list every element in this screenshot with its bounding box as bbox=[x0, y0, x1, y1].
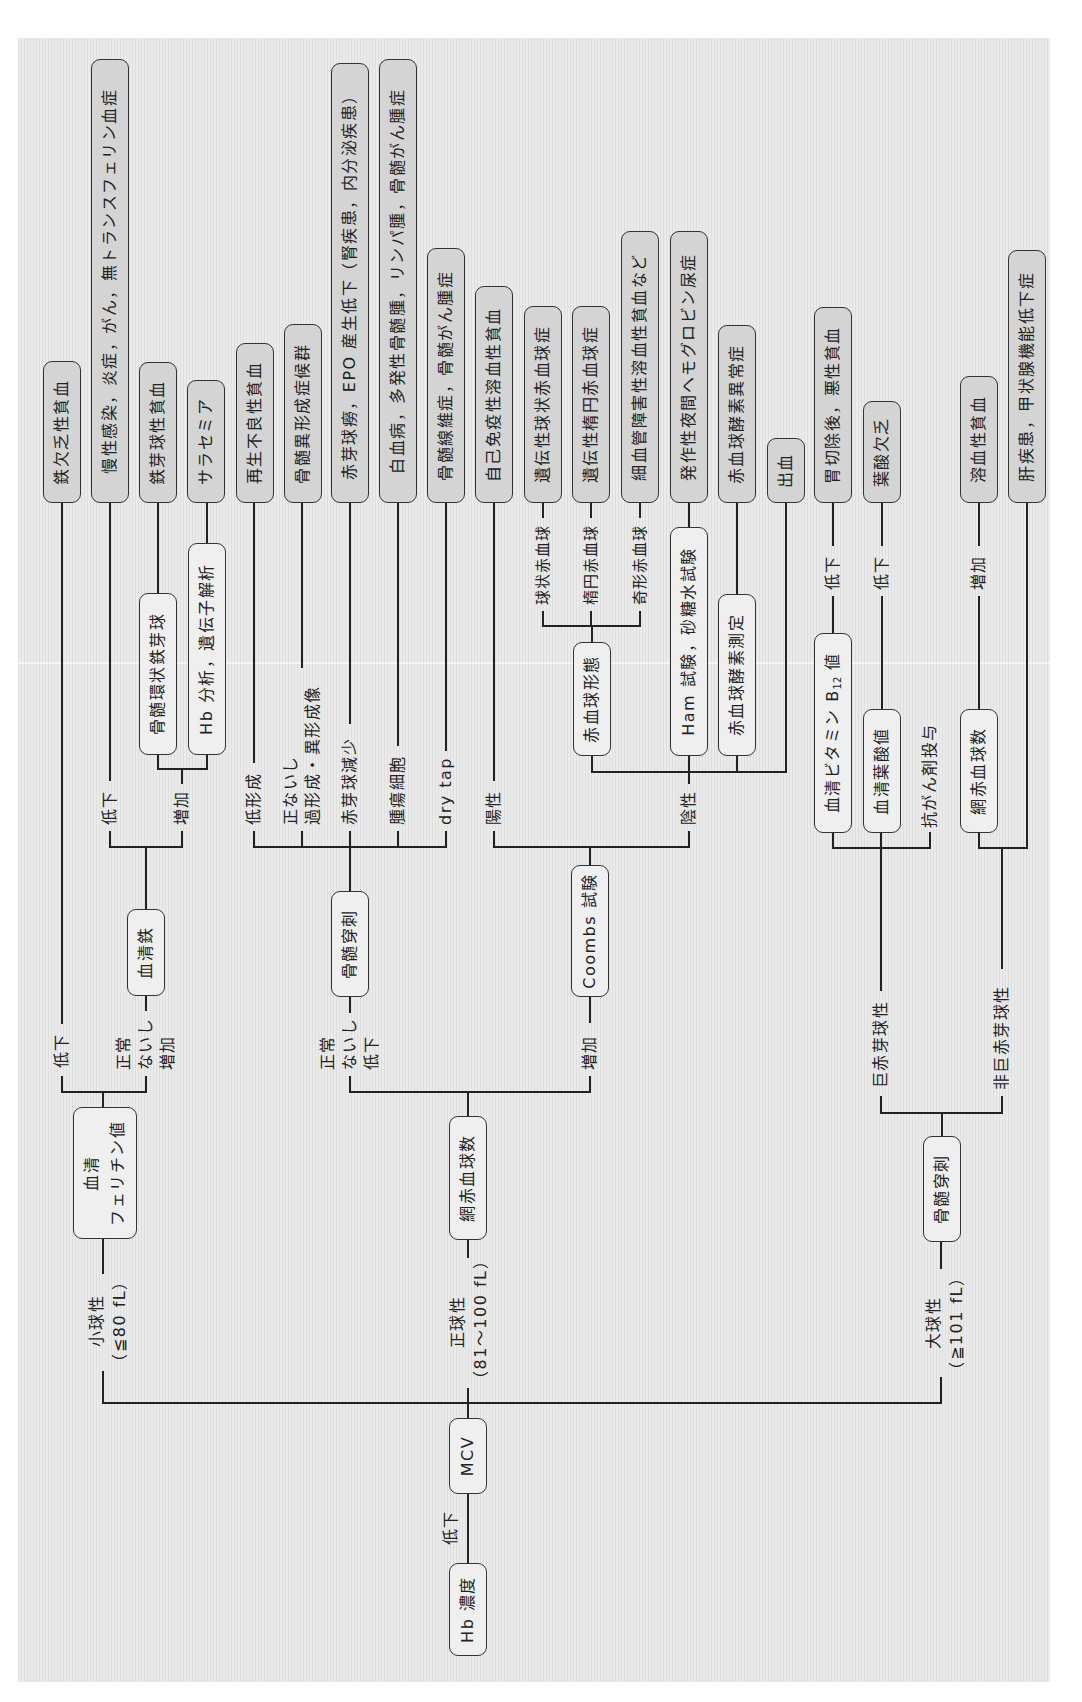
macrocytic-label-line1: 大球性 bbox=[922, 1258, 945, 1388]
edge-label-folate-decreased: 低下 bbox=[872, 555, 892, 590]
serum-ferritin-label-line1: 血清 bbox=[79, 1156, 105, 1191]
reticulocyte-count-node: 網赤血球数 bbox=[449, 1116, 487, 1240]
ring-sideroblast-node: 骨髄環状鉄芽球 bbox=[139, 593, 177, 755]
ring-sideroblast-label: 骨髄環状鉄芽球 bbox=[148, 613, 167, 736]
label-line: 正常 bbox=[113, 1018, 135, 1071]
coombs-test-node: Coombs 試験 bbox=[571, 865, 609, 997]
b12-label-suffix: 値 bbox=[823, 653, 842, 677]
diagnosis-label: 自己免疫性溶血性貧血 bbox=[484, 307, 503, 482]
page: Hb 濃度 低下 MCV 小球性 （≦80 fL） 正球性 （81～100 fL… bbox=[0, 0, 1082, 1702]
diagnosis-label: 出血 bbox=[776, 453, 795, 488]
edge-label-non-megaloblastic: 非巨赤芽球性 bbox=[992, 985, 1012, 1090]
serum-iron-label: 血清鉄 bbox=[136, 926, 155, 979]
microcytic-label: 小球性 （≦80 fL） bbox=[85, 1256, 131, 1386]
edge-label-hypoplastic: 低形成 bbox=[244, 773, 264, 826]
serum-ferritin-node: 血清 フェリチン値 bbox=[73, 1107, 137, 1239]
diagnosis-liver-disease-hypothyroidism: 肝疾患，甲状腺機能低下症 bbox=[1008, 250, 1046, 503]
serum-vitamin-b12-label: 血清ビタミン B12 値 bbox=[823, 653, 844, 814]
edge-label-dry-tap: dry tap bbox=[436, 757, 456, 825]
mcv-node: MCV bbox=[449, 1418, 487, 1494]
diagnosis-pure-red-cell-aplasia: 赤芽球癆，EPO 産生低下（腎疾患，内分泌疾患） bbox=[331, 63, 369, 503]
edge-label-erythroblast-decreased: 赤芽球減少 bbox=[340, 738, 360, 826]
edge-label-anticancer-drug: 抗がん剤投与 bbox=[920, 723, 940, 828]
diagnosis-post-gastrectomy-pernicious-anemia: 胃切除後，悪性貧血 bbox=[814, 307, 852, 503]
normocytic-label-line2: （81～100 fL） bbox=[469, 1257, 492, 1387]
diagnosis-label: サラセミア bbox=[196, 398, 215, 486]
edge-label-ferritin-decreased: 低下 bbox=[52, 1033, 72, 1068]
edge-label-elliptocytes: 楕円赤血球 bbox=[581, 525, 601, 605]
normocytic-label: 正球性 （81～100 fL） bbox=[446, 1257, 492, 1387]
diagnosis-folate-deficiency: 葉酸欠乏 bbox=[863, 401, 901, 503]
edge-label-ferritin-normal-or-increased: 正常 ないし 増加 bbox=[113, 1018, 179, 1071]
rbc-enzyme-assay-label: 赤血球酵素測定 bbox=[727, 614, 746, 737]
anemia-diagnostic-flowchart: Hb 濃度 低下 MCV 小球性 （≦80 fL） 正球性 （81～100 fL… bbox=[0, 0, 1082, 1702]
diagnosis-label: 鉄芽球性貧血 bbox=[148, 380, 167, 485]
diagnosis-label: 再生不良性貧血 bbox=[245, 362, 264, 485]
diagnosis-myelodysplastic-syndrome: 骨髄異形成症候群 bbox=[284, 324, 322, 503]
label-line: 正ないし bbox=[280, 685, 302, 825]
mcv-label: MCV bbox=[458, 1436, 477, 1476]
diagnosis-bleeding: 出血 bbox=[767, 438, 805, 503]
diagnosis-chronic-inflammation: 慢性感染，炎症，がん，無トランスフェリン血症 bbox=[91, 59, 129, 503]
diagnosis-label: 遺伝性楕円赤血球症 bbox=[581, 326, 600, 484]
diagnosis-label: 遺伝性球状赤血球症 bbox=[533, 326, 552, 484]
label-line: 増加 bbox=[157, 1018, 179, 1071]
diagnosis-leukemia-myeloma-lymphoma: 白血病，多発性骨髄腫，リンパ腫，骨髄がん腫症 bbox=[379, 59, 417, 503]
edge-label-coombs-positive: 陽性 bbox=[484, 790, 504, 825]
diagnosis-label: 鉄欠乏性貧血 bbox=[52, 380, 71, 485]
ham-test-label: Ham 試験，砂糖水試験 bbox=[679, 547, 698, 736]
bone-marrow-aspiration-node: 骨髄穿刺 bbox=[331, 891, 369, 997]
bone-marrow-aspiration-macro-label: 骨髄穿刺 bbox=[932, 1154, 951, 1224]
diagnosis-label: 胃切除後，悪性貧血 bbox=[823, 326, 842, 484]
diagnosis-aplastic-anemia: 再生不良性貧血 bbox=[236, 343, 274, 503]
diagnosis-rbc-enzyme-deficiency: 赤血球酵素異常症 bbox=[718, 325, 756, 503]
diagnosis-pnh: 発作性夜間ヘモグロビン尿症 bbox=[670, 231, 708, 503]
diagnosis-microangiopathic-hemolytic-anemia: 細血管障害性溶血性貧血など bbox=[621, 231, 659, 503]
rbc-enzyme-assay-node: 赤血球酵素測定 bbox=[718, 594, 756, 756]
edge-label-serum-iron-decreased: 低下 bbox=[100, 790, 120, 825]
diagnosis-autoimmune-hemolytic-anemia: 自己免疫性溶血性貧血 bbox=[475, 286, 513, 503]
hb-concentration-label: Hb 濃度 bbox=[458, 1576, 477, 1643]
normocytic-label-line1: 正球性 bbox=[446, 1257, 469, 1387]
reticulocyte-count-label: 網赤血球数 bbox=[458, 1134, 477, 1222]
label-line: 過形成・異形成像 bbox=[302, 685, 324, 825]
diagnosis-label: 骨髄異形成症候群 bbox=[293, 344, 312, 484]
label-line: 正常 bbox=[317, 1018, 339, 1071]
edge-label-normo-hyperplastic-dysplastic: 正ないし 過形成・異形成像 bbox=[280, 685, 324, 825]
connectors-trunk bbox=[103, 1239, 941, 1563]
diagnosis-label: 葉酸欠乏 bbox=[872, 417, 891, 487]
diagnosis-thalassemia: サラセミア bbox=[187, 380, 225, 503]
bone-marrow-aspiration-label: 骨髄穿刺 bbox=[340, 909, 359, 979]
bone-marrow-aspiration-macro-node: 骨髄穿刺 bbox=[923, 1136, 961, 1242]
edge-label-reticulocyte-normal-or-decreased: 正常 ないし 低下 bbox=[317, 1018, 383, 1071]
b12-label-main: 血清ビタミン B bbox=[823, 689, 842, 813]
diagnosis-label: 細血管障害性溶血性貧血など bbox=[630, 253, 649, 481]
b12-label-subscript: 12 bbox=[832, 677, 843, 690]
diagnosis-label: 肝疾患，甲状腺機能低下症 bbox=[1017, 272, 1036, 482]
rbc-morphology-node: 赤血球形態 bbox=[573, 642, 611, 756]
macrocytic-label: 大球性 （≧101 fL） bbox=[922, 1258, 968, 1388]
hb-analysis-gene-analysis-node: Hb 分析，遺伝子解析 bbox=[188, 543, 226, 755]
serum-folate-label: 血清葉酸値 bbox=[872, 727, 891, 815]
ham-sucrose-test-node: Ham 試験，砂糖水試験 bbox=[670, 527, 708, 756]
diagnosis-myelofibrosis: 骨髄線維症，骨髄がん腫症 bbox=[427, 248, 465, 503]
microcytic-label-line2: （≦80 fL） bbox=[108, 1256, 131, 1386]
edge-label-coombs-negative: 陰性 bbox=[679, 790, 699, 825]
serum-ferritin-label-line2: フェリチン値 bbox=[105, 1121, 131, 1226]
connector-lines bbox=[0, 0, 1082, 1702]
edge-label-reticulocyte-increased: 増加 bbox=[580, 1035, 600, 1070]
diagnosis-hereditary-spherocytosis: 遺伝性球状赤血球症 bbox=[524, 306, 562, 503]
edge-label-hb-decreased: 低下 bbox=[441, 1510, 461, 1545]
macrocytic-label-line2: （≧101 fL） bbox=[945, 1258, 968, 1388]
diagnosis-label: 赤血球酵素異常症 bbox=[727, 344, 746, 484]
reticulocyte-count-macro-node: 網赤血球数 bbox=[960, 709, 998, 833]
diagnosis-sideroblastic-anemia: 鉄芽球性貧血 bbox=[139, 362, 177, 503]
hb-concentration-node: Hb 濃度 bbox=[449, 1563, 487, 1656]
diagnosis-label: 赤芽球癆，EPO 産生低下（腎疾患，内分泌疾患） bbox=[340, 86, 359, 479]
hb-analysis-label: Hb 分析，遺伝子解析 bbox=[197, 563, 216, 735]
diagnosis-label: 慢性感染，炎症，がん，無トランスフェリン血症 bbox=[100, 89, 119, 474]
diagnosis-label: 発作性夜間ヘモグロビン尿症 bbox=[679, 253, 698, 481]
diagnosis-iron-deficiency-anemia: 鉄欠乏性貧血 bbox=[43, 361, 81, 503]
serum-vitamin-b12-node: 血清ビタミン B12 値 bbox=[814, 633, 852, 833]
microcytic-label-line1: 小球性 bbox=[85, 1256, 108, 1386]
